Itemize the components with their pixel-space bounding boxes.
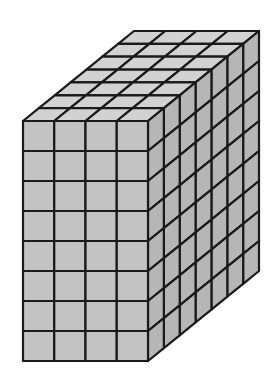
front-cube-face: [23, 151, 54, 181]
front-cube-face: [54, 331, 85, 361]
front-cube-face: [54, 211, 85, 241]
front-cube-face: [86, 181, 117, 211]
front-cube-face: [23, 211, 54, 241]
front-face: [23, 121, 148, 361]
front-cube-face: [86, 331, 117, 361]
front-cube-face: [23, 271, 54, 301]
front-cube-face: [117, 331, 148, 361]
front-cube-face: [23, 331, 54, 361]
front-cube-face: [86, 121, 117, 151]
front-cube-face: [54, 271, 85, 301]
cube-prism-diagram: [0, 0, 277, 387]
front-cube-face: [86, 151, 117, 181]
front-cube-face: [23, 301, 54, 331]
front-cube-face: [117, 151, 148, 181]
front-cube-face: [117, 241, 148, 271]
front-cube-face: [117, 121, 148, 151]
front-cube-face: [86, 271, 117, 301]
front-cube-face: [54, 181, 85, 211]
front-cube-face: [23, 121, 54, 151]
front-cube-face: [54, 121, 85, 151]
front-cube-face: [117, 181, 148, 211]
front-cube-face: [117, 301, 148, 331]
front-cube-face: [54, 301, 85, 331]
front-cube-face: [117, 211, 148, 241]
front-cube-face: [54, 151, 85, 181]
front-cube-face: [86, 301, 117, 331]
front-cube-face: [23, 241, 54, 271]
front-cube-face: [54, 241, 85, 271]
front-cube-face: [23, 181, 54, 211]
front-cube-face: [117, 271, 148, 301]
figure-canvas: Rectangular prism built from unit cubes: [0, 0, 277, 387]
front-cube-face: [86, 211, 117, 241]
front-cube-face: [86, 241, 117, 271]
